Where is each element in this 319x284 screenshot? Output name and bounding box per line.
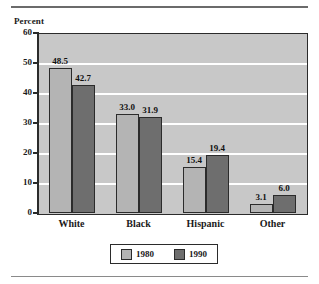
bar-white-1990[interactable] xyxy=(72,85,95,213)
y-axis-tick xyxy=(33,92,38,94)
y-axis-tick-label: 20 xyxy=(10,147,32,157)
category-label-white: White xyxy=(38,218,105,229)
bar-hispanic-1980[interactable] xyxy=(183,167,206,213)
chart-figure: Percent 0102030405060 48.542.733.031.915… xyxy=(0,0,319,284)
chart-legend[interactable]: 1980 1990 xyxy=(110,244,218,264)
y-axis-tick xyxy=(33,122,38,124)
y-axis-tick xyxy=(33,182,38,184)
bar-value-label: 6.0 xyxy=(267,183,302,193)
legend-label-1980: 1980 xyxy=(136,249,154,259)
bar-value-label: 48.5 xyxy=(43,56,78,66)
y-axis-tick xyxy=(33,152,38,154)
bar-other-1980[interactable] xyxy=(250,204,273,213)
y-axis-tick-label: 30 xyxy=(10,117,32,127)
top-divider-rule xyxy=(11,6,308,8)
y-axis-tick xyxy=(33,212,38,214)
legend-item-1990[interactable]: 1990 xyxy=(174,249,207,260)
legend-swatch-1990 xyxy=(174,249,185,260)
bar-white-1980[interactable] xyxy=(49,68,72,214)
legend-swatch-1980 xyxy=(121,249,132,260)
y-axis-tick-label: 0 xyxy=(10,207,32,217)
category-label-hispanic: Hispanic xyxy=(172,218,239,229)
category-label-black: Black xyxy=(105,218,172,229)
bar-value-label: 31.9 xyxy=(133,105,168,115)
y-axis-tick-label: 60 xyxy=(10,27,32,37)
bar-value-label: 19.4 xyxy=(200,143,235,153)
bar-black-1980[interactable] xyxy=(116,114,139,213)
y-axis-title: Percent xyxy=(14,16,44,26)
y-axis-tick xyxy=(33,62,38,64)
bar-other-1990[interactable] xyxy=(273,195,296,213)
y-axis-tick-label: 10 xyxy=(10,177,32,187)
legend-label-1990: 1990 xyxy=(189,249,207,259)
y-axis-tick-label: 50 xyxy=(10,57,32,67)
legend-item-1980[interactable]: 1980 xyxy=(121,249,154,260)
bar-value-label: 42.7 xyxy=(66,73,101,83)
gridline xyxy=(39,63,307,65)
bar-hispanic-1990[interactable] xyxy=(206,155,229,213)
y-axis-tick xyxy=(33,32,38,34)
category-label-other: Other xyxy=(239,218,306,229)
bottom-divider-rule xyxy=(11,276,308,277)
bar-black-1990[interactable] xyxy=(139,117,162,213)
y-axis-tick-label: 40 xyxy=(10,87,32,97)
